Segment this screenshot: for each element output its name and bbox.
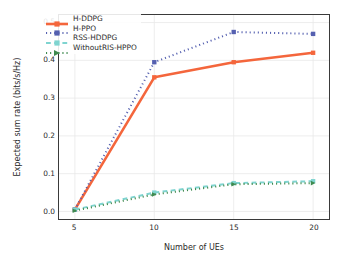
y-tick-label: 0.0	[15, 208, 55, 216]
series-withoutris-hppo	[73, 181, 316, 213]
data-point-marker	[152, 60, 156, 64]
legend-swatch-icon	[45, 33, 69, 43]
series-h-ddpg	[73, 51, 316, 212]
data-point-marker	[232, 60, 236, 64]
series-line	[75, 53, 313, 210]
legend-item-rss-hddpg[interactable]: RSS-HDDPG	[45, 33, 137, 43]
legend-item-withoutris-hppo[interactable]: WithoutRIS-HPPO	[45, 43, 137, 53]
legend-label: WithoutRIS-HPPO	[73, 43, 137, 53]
x-axis-label: Number of UEs	[58, 243, 330, 252]
data-point-marker	[311, 51, 315, 55]
legend-label: H-PPO	[73, 24, 96, 34]
legend-label: RSS-HDDPG	[73, 33, 117, 43]
data-point-marker	[232, 30, 236, 34]
x-tick-label: 15	[219, 224, 249, 232]
y-tick-label: 0.2	[15, 132, 55, 140]
data-point-marker	[54, 50, 60, 56]
y-axis-label: Expected sum rate (bits/s/Hz)	[11, 14, 25, 220]
legend-item-h-ppo[interactable]: H-PPO	[45, 24, 137, 34]
x-tick-label: 20	[299, 224, 329, 232]
chart-figure: Expected sum rate (bits/s/Hz) 0.00.10.20…	[0, 0, 349, 269]
legend-item-h-ddpg[interactable]: H-DDPG	[45, 14, 137, 24]
series-line	[75, 183, 313, 211]
data-point-marker	[152, 75, 156, 79]
x-tick-label: 10	[139, 224, 169, 232]
legend-swatch-icon	[45, 43, 69, 53]
data-series-layer	[73, 30, 316, 213]
legend-swatch-icon	[45, 14, 69, 24]
x-tick-label: 5	[59, 224, 89, 232]
y-tick-label: 0.3	[15, 94, 55, 102]
y-tick-label: 0.1	[15, 170, 55, 178]
data-point-marker	[311, 32, 315, 36]
series-line	[75, 181, 313, 209]
series-rss-hddpg	[73, 179, 316, 212]
chart-legend: H-DDPGH-PPORSS-HDDPGWithoutRIS-HPPO	[43, 12, 141, 54]
legend-swatch-icon	[45, 23, 69, 33]
legend-label: H-DDPG	[73, 14, 103, 24]
